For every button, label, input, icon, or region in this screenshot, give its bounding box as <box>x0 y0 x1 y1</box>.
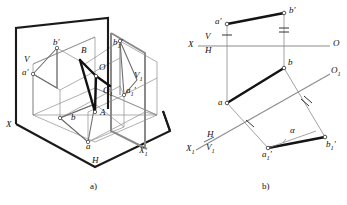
label-axis-o1-b: O1 <box>331 66 341 77</box>
label-axis-x1: X1 <box>139 146 148 157</box>
label-point-a-prime-a: a' <box>22 68 28 77</box>
label-point-A: A <box>100 108 106 117</box>
label-axis-x1-b: X1 <box>186 144 195 155</box>
label-point-b-a: b <box>71 113 76 122</box>
panel-a-drawing <box>0 0 347 205</box>
label-plane-v: V <box>24 55 30 64</box>
caption-panel-a: a) <box>90 182 97 191</box>
label-point-b-b: b <box>288 58 293 67</box>
label-point-O: O <box>99 63 106 72</box>
label-axis-o-right: O <box>333 39 340 48</box>
label-plane-h: H <box>92 156 99 165</box>
label-axis-x: X <box>6 120 12 129</box>
label-point-a-b: a <box>218 98 223 107</box>
label-point-a-a: a <box>86 142 91 151</box>
label-axis-v-top: V <box>205 32 211 41</box>
label-point-a-prime-b: a' <box>215 17 221 26</box>
label-axis-v1-b: V1 <box>206 143 215 154</box>
label-point-b1-prime-a: b1' <box>113 38 123 49</box>
label-point-O1: O1 <box>103 86 113 97</box>
label-point-b1-prime-b: b1' <box>326 140 336 151</box>
label-point-a1-prime-a: a1' <box>126 86 136 97</box>
label-point-a1-prime-b: a1' <box>262 150 272 161</box>
label-axis-x-b: X <box>188 40 194 49</box>
label-point-b-prime-a: b' <box>53 38 59 47</box>
label-angle-alpha: α <box>290 126 295 135</box>
label-axis-h-second: H <box>207 130 214 139</box>
label-point-b-prime-b: b' <box>289 6 295 15</box>
figure-page: V V1 H X X1 b' a' B O O1 A b a b1' a1' X… <box>0 0 347 205</box>
label-plane-v1: V1 <box>134 71 143 82</box>
label-point-B: B <box>81 46 87 55</box>
caption-panel-b: b) <box>262 182 270 191</box>
label-axis-h-bottom: H <box>205 46 212 55</box>
